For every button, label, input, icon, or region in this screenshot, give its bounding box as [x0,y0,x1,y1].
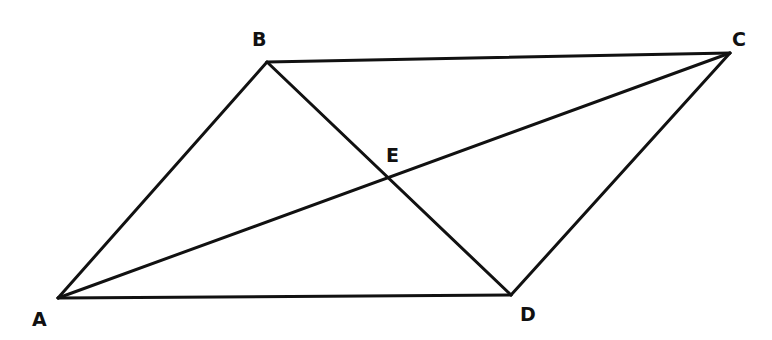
label-b: B [252,28,266,50]
segment-cd [511,53,730,295]
segment-ac [58,53,730,298]
segments [58,53,730,298]
segment-ab [58,62,267,298]
segment-bc [267,53,730,62]
parallelogram-diagram: A B C D E [0,0,772,340]
label-c: C [732,28,746,50]
segment-da [58,295,511,298]
label-a: A [32,308,47,330]
label-e: E [386,144,399,166]
label-d: D [520,303,536,325]
segment-bd [267,62,511,295]
